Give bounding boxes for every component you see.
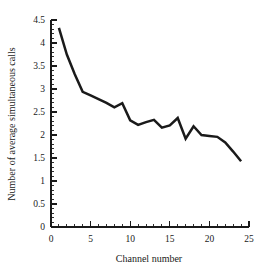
x-tick-label: 0	[49, 234, 54, 244]
x-tick-label: 10	[125, 234, 135, 244]
y-axis-title: Number of average simultaneous calls	[6, 47, 17, 200]
y-tick-label: 2	[40, 130, 45, 140]
x-tick-label: 20	[205, 234, 215, 244]
x-axis-title: Channel number	[116, 253, 183, 264]
x-tick-label: 25	[244, 234, 254, 244]
chart-ticks	[51, 20, 249, 227]
y-tick-label: 3.5	[33, 61, 45, 71]
y-tick-label: 0	[40, 222, 45, 232]
x-tick-label: 5	[88, 234, 93, 244]
data-series-line	[59, 28, 241, 161]
y-tick-label: 0.5	[33, 199, 45, 209]
y-tick-label: 2.5	[33, 107, 45, 117]
y-tick-label: 4.5	[33, 15, 45, 25]
x-tick-label: 15	[165, 234, 175, 244]
y-tick-label: 3	[40, 84, 45, 94]
y-tick-label: 1.5	[33, 153, 45, 163]
chart-series	[59, 28, 241, 161]
y-tick-label: 4	[40, 38, 45, 48]
line-chart: 051015202500.511.522.533.544.5 Channel n…	[0, 0, 267, 273]
y-tick-label: 1	[40, 176, 45, 186]
chart-axes	[51, 20, 249, 227]
chart-figure: 051015202500.511.522.533.544.5 Channel n…	[0, 0, 267, 273]
